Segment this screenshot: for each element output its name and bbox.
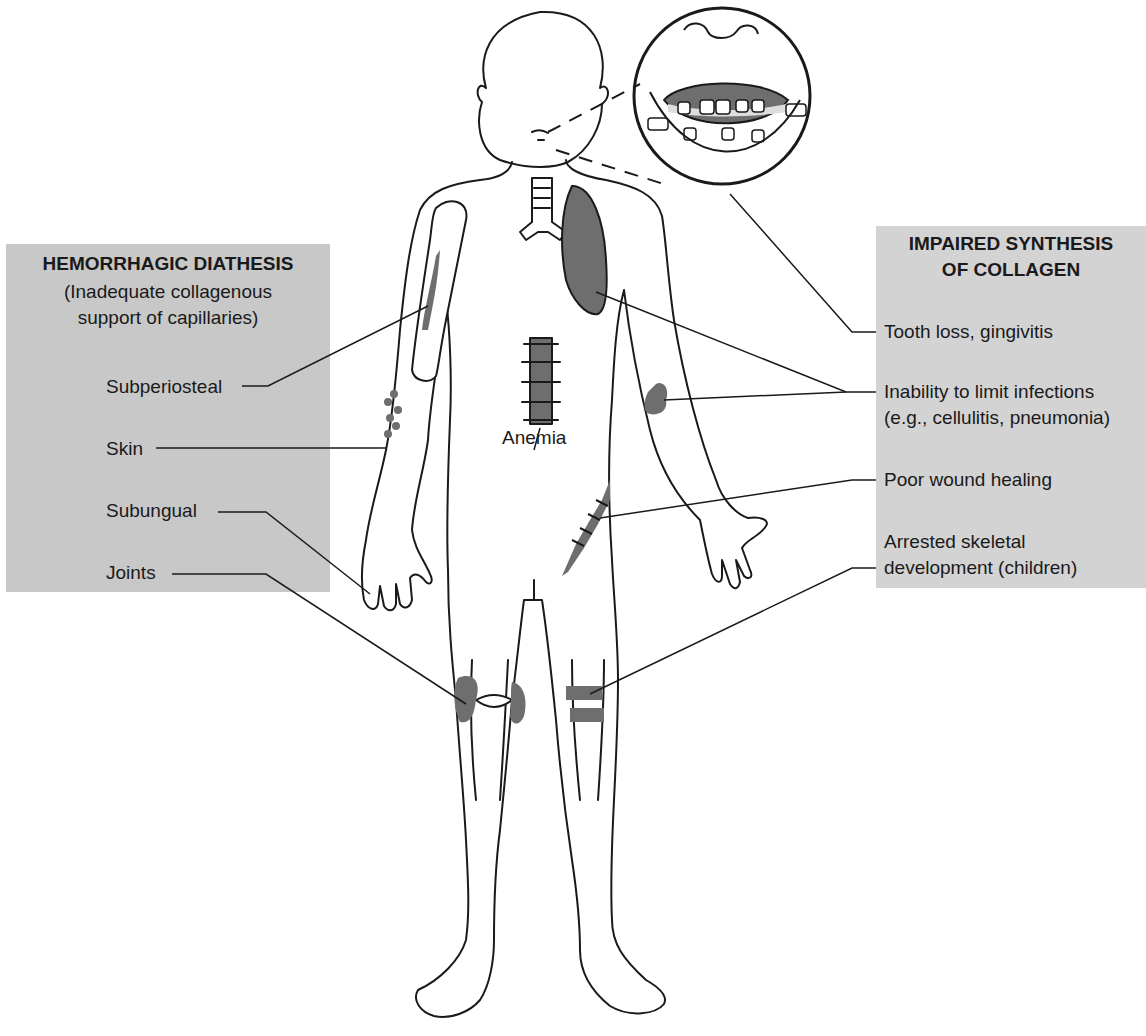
label-wound-healing: Poor wound healing bbox=[884, 468, 1052, 492]
hemorrhagic-subtitle-line1: (Inadequate collagenous bbox=[6, 280, 330, 304]
knee-epiphysis-right-2 bbox=[570, 708, 604, 722]
label-infections-line2: (e.g., cellulitis, pneumonia) bbox=[884, 406, 1110, 430]
hemorrhagic-diathesis-title: HEMORRHAGIC DIATHESIS bbox=[6, 252, 330, 276]
label-infections-line1: Inability to limit infections bbox=[884, 380, 1094, 404]
knee-epiphysis-right bbox=[566, 686, 602, 700]
cellulitis-lesion bbox=[645, 383, 668, 414]
label-skeletal-line1: Arrested skeletal bbox=[884, 530, 1026, 554]
label-skeletal-line2: development (children) bbox=[884, 556, 1077, 580]
impaired-synthesis-title-line2: OF COLLAGEN bbox=[876, 258, 1146, 282]
label-subperiosteal: Subperiosteal bbox=[106, 375, 222, 399]
label-subungual: Subungual bbox=[106, 499, 197, 523]
wound-lesion bbox=[562, 480, 610, 576]
humerus-bone bbox=[412, 201, 466, 381]
lung-lesion bbox=[562, 186, 607, 314]
label-skin: Skin bbox=[106, 437, 143, 461]
head-outline bbox=[478, 12, 608, 167]
knee-hemorrhage-left-2 bbox=[510, 682, 526, 724]
label-anemia: Anemia bbox=[502, 426, 566, 450]
label-joints: Joints bbox=[106, 561, 156, 585]
impaired-synthesis-title-line1: IMPAIRED SYNTHESIS bbox=[876, 232, 1146, 256]
label-tooth-loss: Tooth loss, gingivitis bbox=[884, 320, 1053, 344]
hemorrhagic-subtitle-line2: support of capillaries) bbox=[6, 306, 330, 330]
skin-petechiae bbox=[384, 390, 402, 438]
mouth-inset bbox=[548, 8, 810, 186]
